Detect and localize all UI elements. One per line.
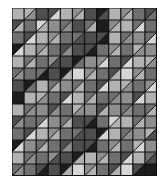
tile-cell	[85, 68, 97, 80]
tile-square	[60, 128, 72, 140]
tile-square	[109, 104, 121, 116]
tile-square	[85, 80, 97, 92]
tile-cell	[145, 80, 157, 92]
tile-cell	[48, 116, 60, 128]
tile-cell	[121, 68, 133, 80]
tile-square	[97, 116, 109, 128]
tile-cell	[60, 92, 72, 104]
tile-cell	[121, 128, 133, 140]
tile-cell	[121, 32, 133, 44]
tile-cell	[48, 44, 60, 56]
tile-cell	[145, 32, 157, 44]
tile-cell	[145, 68, 157, 80]
tile-cell	[145, 164, 157, 176]
tile-square	[12, 8, 24, 20]
tile-square	[48, 140, 60, 152]
tile-cell	[97, 116, 109, 128]
tile-cell	[24, 152, 36, 164]
tile-cell	[48, 92, 60, 104]
tile-cell	[60, 116, 72, 128]
tile-square	[36, 128, 48, 140]
tile-square	[85, 128, 97, 140]
tile-square	[60, 80, 72, 92]
tile-cell	[24, 32, 36, 44]
tile-cell	[24, 104, 36, 116]
tile-cell	[48, 128, 60, 140]
tile-square	[24, 140, 36, 152]
tile-square	[60, 8, 72, 20]
tile-square	[12, 32, 24, 44]
tile-square	[72, 20, 84, 32]
tile-cell	[24, 164, 36, 176]
tile-square	[133, 128, 145, 140]
tile-cell	[85, 32, 97, 44]
tile-cell	[36, 20, 48, 32]
tile-cell	[133, 32, 145, 44]
tile-cell	[109, 8, 121, 20]
tile-square	[48, 44, 60, 56]
tile-square	[145, 20, 157, 32]
tile-pattern	[12, 8, 157, 176]
tile-cell	[12, 80, 24, 92]
tile-cell	[24, 8, 36, 20]
tile-square	[145, 140, 157, 152]
tile-cell	[60, 128, 72, 140]
tile-cell	[72, 104, 84, 116]
tile-cell	[97, 8, 109, 20]
tile-cell	[145, 104, 157, 116]
tile-cell	[133, 8, 145, 20]
tile-square	[36, 8, 48, 20]
tile-square	[36, 80, 48, 92]
tile-cell	[145, 116, 157, 128]
tile-cell	[72, 152, 84, 164]
tile-cell	[24, 20, 36, 32]
tile-cell	[48, 80, 60, 92]
tile-square	[109, 32, 121, 44]
tile-cell	[36, 140, 48, 152]
tile-cell	[24, 140, 36, 152]
tile-cell	[145, 140, 157, 152]
tile-cell	[36, 8, 48, 20]
tile-cell	[48, 152, 60, 164]
tile-cell	[85, 152, 97, 164]
tile-cell	[72, 32, 84, 44]
tile-cell	[133, 92, 145, 104]
tile-cell	[145, 92, 157, 104]
tile-square	[72, 44, 84, 56]
tile-square	[109, 128, 121, 140]
tile-square	[36, 152, 48, 164]
tile-cell	[24, 92, 36, 104]
tile-cell	[12, 44, 24, 56]
tile-cell	[121, 104, 133, 116]
tile-cell	[60, 80, 72, 92]
tile-square	[48, 116, 60, 128]
tile-cell	[109, 104, 121, 116]
tile-cell	[145, 56, 157, 68]
tile-cell	[109, 116, 121, 128]
tile-cell	[145, 152, 157, 164]
tile-cell	[36, 44, 48, 56]
tile-square	[109, 80, 121, 92]
tile-cell	[48, 140, 60, 152]
pattern-canvas	[12, 8, 157, 176]
tile-cell	[12, 128, 24, 140]
tile-square	[145, 164, 157, 176]
tile-cell	[85, 8, 97, 20]
tile-cell	[72, 80, 84, 92]
tile-cell	[36, 68, 48, 80]
tile-cell	[36, 164, 48, 176]
tile-square	[109, 8, 121, 20]
tile-square	[60, 56, 72, 68]
tile-square	[133, 80, 145, 92]
tile-cell	[12, 116, 24, 128]
tile-cell	[85, 92, 97, 104]
tile-cell	[85, 116, 97, 128]
tile-square	[133, 32, 145, 44]
tile-square	[121, 164, 133, 176]
tile-square	[133, 152, 145, 164]
tile-cell	[48, 164, 60, 176]
tile-cell	[97, 44, 109, 56]
tile-cell	[24, 68, 36, 80]
tile-cell	[133, 164, 145, 176]
tile-cell	[133, 152, 145, 164]
